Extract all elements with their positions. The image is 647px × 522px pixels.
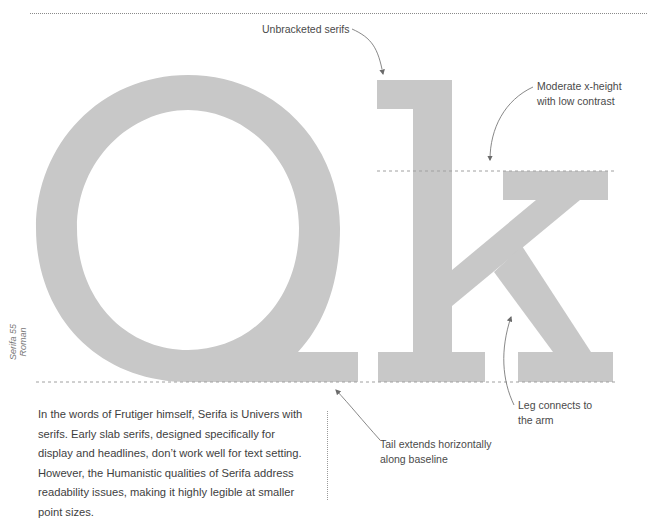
- annotation-tail-line2: along baseline: [380, 452, 491, 467]
- annotation-x-height-line1: Moderate x-height: [537, 79, 622, 94]
- annotation-leg-line2: the arm: [518, 413, 592, 428]
- annotation-tail-line1: Tail extends horizontally: [380, 437, 491, 452]
- arrow-tail: [336, 390, 380, 440]
- column-divider: [327, 411, 328, 500]
- annotation-leg: Leg connects to the arm: [518, 398, 592, 428]
- typeface-label: Serifa 55 Roman: [8, 312, 28, 372]
- glyph-q: [36, 75, 358, 382]
- annotation-tail: Tail extends horizontally along baseline: [380, 437, 491, 467]
- glyph-k: [377, 80, 613, 382]
- arrow-x-height: [490, 87, 533, 160]
- annotation-x-height: Moderate x-height with low contrast: [537, 79, 622, 109]
- arrow-leg: [504, 317, 514, 405]
- annotation-x-height-line2: with low contrast: [537, 94, 622, 109]
- annotation-leg-line1: Leg connects to: [518, 398, 592, 413]
- arrow-unbracketed-serifs: [352, 29, 383, 74]
- annotation-unbracketed-serifs: Unbracketed serifs: [262, 22, 350, 37]
- body-paragraph: In the words of Frutiger himself, Serifa…: [38, 405, 308, 522]
